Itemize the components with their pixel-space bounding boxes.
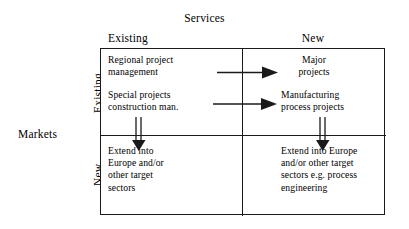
top-axis-title: Services xyxy=(0,12,409,24)
column-header-new: New xyxy=(241,32,385,44)
quadrant-bottom-right-entry-1: Extend into Europe and/or other target s… xyxy=(281,145,357,194)
left-axis-title: Markets xyxy=(18,128,57,140)
matrix-vertical-divider xyxy=(242,49,243,216)
column-header-existing: Existing xyxy=(108,32,148,44)
matrix-horizontal-divider xyxy=(101,135,386,136)
quadrant-top-right-entry-2: Manufacturing process projects xyxy=(281,89,344,113)
quadrant-top-left-entry-1: Regional project management xyxy=(108,54,173,78)
quadrant-top-left-entry-2: Special projects construction man. xyxy=(108,89,178,113)
matrix-diagram: Services Markets Existing New Existing N… xyxy=(0,0,409,229)
quadrant-top-right-entry-1: Major projects xyxy=(245,54,383,78)
quadrant-bottom-left-entry-1: Extend into Europe and/or other target s… xyxy=(108,145,164,194)
